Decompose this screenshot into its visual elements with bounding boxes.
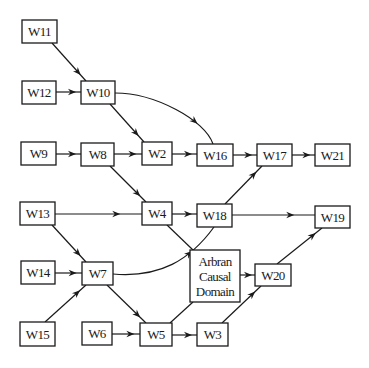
edge-w10-to-w2 — [110, 104, 144, 142]
node-w16: W16 — [197, 144, 233, 166]
node-label: W13 — [26, 206, 50, 221]
node-label: W18 — [203, 208, 227, 223]
node-label: W8 — [89, 147, 107, 162]
node-label: W3 — [204, 327, 222, 342]
node-w14: W14 — [21, 261, 55, 284]
node-label: Arbran — [198, 254, 232, 269]
node-w9: W9 — [21, 142, 56, 165]
node-label: W21 — [321, 148, 345, 163]
node-label: W20 — [261, 268, 285, 283]
edge-w10-to-w16 — [115, 93, 213, 144]
edge-w5-to-acd — [170, 302, 193, 323]
node-w5: W5 — [140, 323, 172, 346]
node-label: W9 — [30, 146, 48, 161]
causal-diagram: W11W12W10W9W8W2W16W17W21W13W4W18W19W14W7… — [0, 0, 369, 368]
node-w12: W12 — [22, 81, 56, 104]
node-label: W11 — [28, 24, 51, 39]
node-w6: W6 — [82, 322, 112, 345]
node-label: W6 — [88, 326, 107, 341]
nodes-layer: W11W12W10W9W8W2W16W17W21W13W4W18W19W14W7… — [20, 20, 350, 346]
edge-w8-to-w4 — [110, 166, 146, 202]
edge-w10-to-w16-arrowhead — [189, 116, 197, 124]
node-label: W5 — [147, 327, 165, 342]
node-w8: W8 — [81, 143, 114, 166]
node-w15: W15 — [20, 322, 55, 346]
node-w21: W21 — [315, 144, 350, 166]
node-label: W17 — [263, 148, 288, 163]
node-w18: W18 — [197, 204, 232, 227]
node-label: W12 — [27, 85, 51, 100]
node-w20: W20 — [255, 264, 291, 286]
node-label: W10 — [86, 85, 110, 100]
node-label: W15 — [26, 327, 50, 342]
node-w11: W11 — [22, 20, 57, 43]
edge-w18-to-w17 — [225, 166, 262, 204]
node-w13: W13 — [20, 202, 55, 225]
node-w10: W10 — [81, 81, 115, 104]
node-w3: W3 — [197, 323, 228, 346]
diagram-svg: W11W12W10W9W8W2W16W17W21W13W4W18W19W14W7… — [0, 0, 369, 368]
node-label: Domain — [196, 284, 235, 299]
node-w19: W19 — [315, 206, 350, 228]
node-w17: W17 — [257, 144, 292, 166]
node-label: W2 — [148, 146, 166, 161]
node-label: W4 — [148, 206, 167, 221]
edge-w13-to-w7 — [52, 225, 86, 262]
node-label: Causal — [199, 269, 232, 284]
node-label: W7 — [89, 266, 108, 281]
edge-w11-to-w10 — [52, 43, 86, 81]
node-w7: W7 — [82, 262, 113, 285]
node-label: W14 — [26, 265, 51, 280]
node-acd: ArbranCausalDomain — [190, 250, 240, 302]
node-label: W16 — [203, 148, 228, 163]
node-w2: W2 — [142, 142, 172, 165]
node-w4: W4 — [142, 202, 172, 225]
node-label: W19 — [321, 210, 345, 225]
edge-w4-to-acd — [167, 225, 193, 250]
